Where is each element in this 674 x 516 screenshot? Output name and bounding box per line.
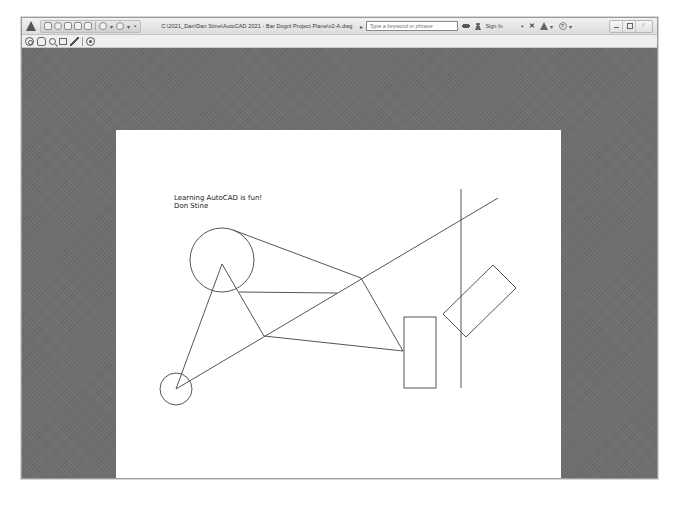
help-icon[interactable]: ?: [559, 22, 567, 30]
exchange-icon[interactable]: ✕: [528, 22, 536, 30]
binoculars-icon[interactable]: [462, 22, 470, 30]
sign-in-button[interactable]: Sign In: [485, 23, 502, 29]
drawing-text-line-2[interactable]: Don Stine: [174, 202, 208, 210]
plot-icon[interactable]: [84, 22, 92, 30]
drawing-canvas[interactable]: Learning AutoCAD is fun! Don Stine: [22, 48, 657, 478]
toolbar-separator: [95, 22, 96, 30]
user-icon[interactable]: [474, 22, 482, 30]
search-input[interactable]: [366, 21, 458, 31]
close-button[interactable]: [636, 21, 652, 32]
search-expand-icon[interactable]: ▸: [360, 23, 363, 30]
autodesk-app-icon[interactable]: [540, 22, 548, 30]
redo-icon[interactable]: [116, 22, 124, 30]
toolbar-separator: [82, 37, 83, 46]
save-as-icon[interactable]: [74, 22, 82, 30]
drawing-svg[interactable]: Learning AutoCAD is fun! Don Stine: [22, 48, 657, 478]
drawing-text-line-1[interactable]: Learning AutoCAD is fun!: [174, 194, 262, 202]
paper-sheet: [116, 130, 561, 478]
pan-icon[interactable]: [37, 37, 46, 46]
orbit-icon[interactable]: [70, 37, 79, 46]
application-menu-button[interactable]: [25, 20, 37, 32]
autocad-window: ▾ ▾ ▪ C:\2021_Dan\Dan Stine\AutoCAD 2021…: [21, 17, 658, 479]
minimize-button[interactable]: [610, 21, 623, 32]
redo-dropdown-icon[interactable]: ▾: [127, 23, 130, 30]
open-icon[interactable]: [54, 22, 62, 30]
app-dropdown-icon[interactable]: ▾: [550, 23, 553, 30]
sign-in-dropdown-icon[interactable]: ▾: [521, 23, 524, 29]
undo-icon[interactable]: [99, 22, 107, 30]
showmotion-icon[interactable]: [86, 37, 95, 46]
restore-button[interactable]: [623, 21, 636, 32]
zoom-icon[interactable]: [49, 38, 56, 45]
save-icon[interactable]: [64, 22, 72, 30]
undo-dropdown-icon[interactable]: ▾: [110, 23, 113, 30]
zoom-window-icon[interactable]: [59, 38, 67, 45]
window-controls: [609, 20, 653, 33]
help-dropdown-icon[interactable]: ▾: [569, 23, 572, 30]
steering-wheel-icon[interactable]: [25, 37, 34, 46]
window-title: C:\2021_Dan\Dan Stine\AutoCAD 2021 - Bar…: [161, 23, 352, 29]
workspace-dropdown-icon[interactable]: ▪: [134, 23, 136, 29]
quick-access-toolbar: ▾ ▾ ▪: [40, 20, 141, 33]
new-icon[interactable]: [44, 22, 52, 30]
navigation-toolbar: [22, 35, 657, 48]
title-bar: ▾ ▾ ▪ C:\2021_Dan\Dan Stine\AutoCAD 2021…: [22, 18, 657, 35]
